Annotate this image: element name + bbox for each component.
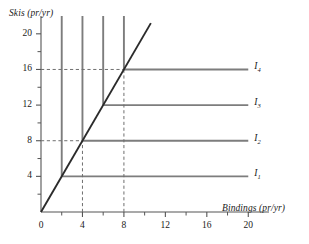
isoquant-label-subscript: 1 bbox=[257, 173, 260, 180]
isoquant-label-i1: I1 bbox=[254, 168, 260, 180]
isoquant-label-i2: I2 bbox=[254, 133, 260, 145]
y-tick-label: 8 bbox=[14, 135, 32, 145]
x-tick-label: 16 bbox=[198, 220, 216, 230]
isoquant-curves bbox=[62, 16, 249, 176]
ray-line bbox=[41, 23, 151, 212]
x-tick-label: 20 bbox=[239, 220, 257, 230]
isoquant-label-i4: I4 bbox=[254, 61, 260, 73]
expansion-path-ray bbox=[41, 23, 151, 212]
isoquant-label-subscript: 3 bbox=[257, 102, 260, 109]
x-tick-label: 4 bbox=[73, 220, 91, 230]
x-tick-label: 8 bbox=[115, 220, 133, 230]
x-tick-label: 0 bbox=[32, 220, 50, 230]
y-tick-label: 12 bbox=[14, 99, 32, 109]
isoquant-chart bbox=[0, 0, 309, 244]
x-tick-label: 12 bbox=[156, 220, 174, 230]
isoquant-label-subscript: 4 bbox=[257, 66, 260, 73]
axes bbox=[36, 16, 269, 217]
y-tick-label: 16 bbox=[14, 63, 32, 73]
isoquant-label-i3: I3 bbox=[254, 97, 260, 109]
y-tick-label: 20 bbox=[14, 28, 32, 38]
y-tick-label: 4 bbox=[14, 170, 32, 180]
isoquant-label-subscript: 2 bbox=[257, 138, 260, 145]
